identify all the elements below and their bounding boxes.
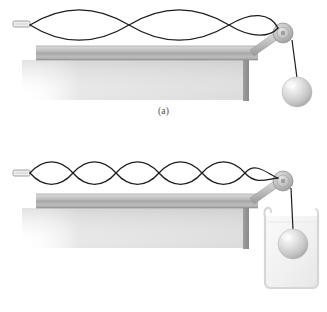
hanging-sphere	[282, 77, 312, 107]
string-clamp	[13, 170, 30, 176]
table-front-edge	[36, 53, 258, 60]
table-shadow	[22, 60, 247, 100]
pulley	[273, 23, 293, 43]
physics-figure-standing-waves: (a)	[0, 0, 327, 312]
panel-a-illustration	[0, 0, 327, 156]
pulley	[273, 171, 293, 191]
panel-a-label: (a)	[0, 106, 327, 116]
submerged-sphere	[278, 229, 308, 259]
standing-wave-string	[30, 162, 278, 185]
panel-a: (a)	[0, 0, 327, 156]
string-clamp	[13, 21, 30, 27]
table-top-surface	[36, 46, 258, 53]
panel-b: (b)	[0, 156, 327, 312]
table-shadow	[22, 208, 247, 248]
panel-b-illustration	[0, 156, 327, 312]
table-front-edge	[36, 201, 258, 208]
hanging-string	[292, 40, 297, 78]
table-top-surface	[36, 194, 258, 201]
standing-wave-string	[30, 10, 278, 40]
